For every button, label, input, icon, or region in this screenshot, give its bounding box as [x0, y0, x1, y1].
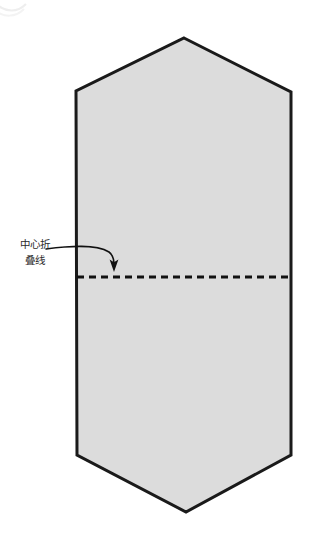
fold-line-label-line-2: 叠线 [12, 252, 58, 268]
fold-line-label-line-1: 中心折 [12, 236, 58, 252]
paper-sheet-shape [76, 38, 291, 512]
diagram-canvas: 中心折 叠线 [0, 0, 314, 539]
fold-line-label: 中心折 叠线 [12, 236, 58, 268]
faint-corner-arc [0, 2, 26, 16]
fold-diagram-svg [0, 0, 314, 539]
